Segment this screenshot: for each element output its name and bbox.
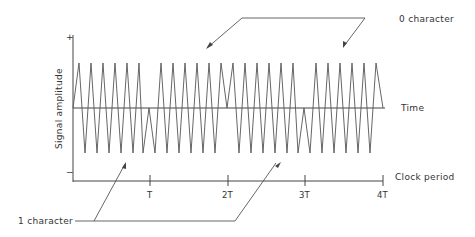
fsk-waveform-diagram: + − Signal amplitude Time T 2T 3T 4T Clo… [0, 0, 475, 237]
zero-character-leader-right [344, 18, 365, 46]
arrow-head-icon [275, 162, 281, 168]
time-axis-label: Time [400, 103, 424, 113]
one-character-leader [75, 163, 276, 221]
y-axis-plus-label: + [66, 32, 74, 42]
clock-tick-label-4T: 4T [377, 190, 388, 200]
arrow-head-icon [343, 41, 347, 48]
one-character-label: 1 character [18, 216, 73, 226]
one-character-leader-left [94, 164, 125, 221]
zero-character-leader [207, 18, 365, 48]
clock-tick-label-3T: 3T [299, 190, 310, 200]
arrow-head-icon [122, 162, 126, 169]
clock-axis-label: Clock period [395, 172, 455, 182]
zero-character-label: 0 character [399, 14, 454, 24]
clock-tick-label-T: T [146, 190, 153, 200]
arrow-head-icon [206, 42, 213, 49]
y-axis-label: Signal amplitude [54, 68, 64, 149]
clock-tick-label-2T: 2T [222, 190, 233, 200]
y-axis-minus-label: − [66, 167, 74, 177]
